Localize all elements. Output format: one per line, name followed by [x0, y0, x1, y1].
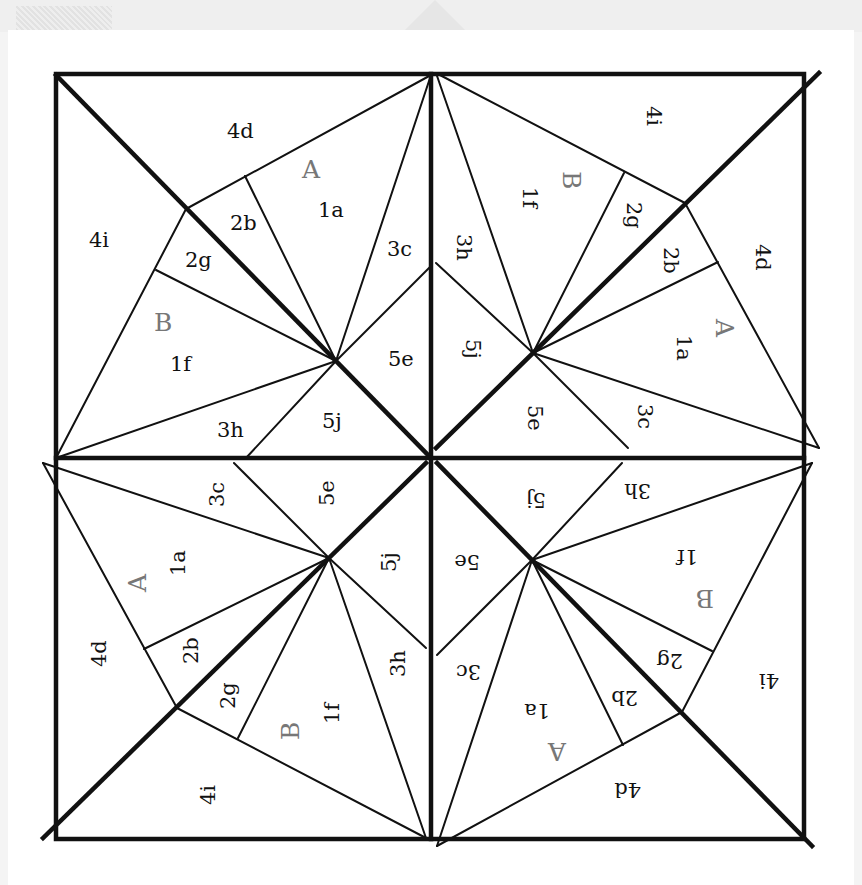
quadrant-top-left: 4d 4i A 1a 2b 2g 3c B 1f 5e 3h 5j [56, 75, 431, 458]
label-5j: 5j [377, 552, 401, 572]
section-letter-b: B [557, 171, 586, 189]
label-1a: 1a [672, 335, 696, 361]
label-2g: 2g [656, 649, 683, 673]
label-1a: 1a [166, 550, 190, 576]
label-4i: 4i [196, 785, 220, 805]
quilt-block-diagram: 4d 4i A 1a 2b 2g 3c B 1f 5e 3h 5j 4d 4i … [0, 0, 862, 885]
label-4d: 4d [614, 778, 641, 802]
label-5j: 5j [461, 339, 485, 359]
label-4d: 4d [87, 640, 111, 667]
label-4i: 4i [642, 106, 666, 126]
label-5j: 5j [322, 409, 342, 433]
label-3h: 3h [452, 234, 476, 261]
label-3h: 3h [386, 650, 410, 677]
quadrant-bottom-right: 4d 4i A 1a 2b 2g 3c B 1f 5e 3h 5j [437, 463, 812, 846]
label-2g: 2g [185, 248, 212, 272]
label-2b: 2b [611, 686, 638, 710]
label-3c: 3c [633, 404, 657, 429]
label-3c: 3c [387, 237, 412, 261]
label-4i: 4i [759, 669, 779, 693]
label-1f: 1f [518, 187, 542, 210]
label-2b: 2b [230, 211, 257, 235]
section-letter-a: A [547, 737, 567, 766]
quadrant-bottom-left: 4d 4i A 1a 2b 2g 3c B 1f 5e 3h 5j [43, 463, 426, 838]
label-4d: 4d [227, 119, 254, 143]
label-5e: 5e [523, 405, 547, 431]
label-1a: 1a [524, 699, 550, 723]
label-3c: 3c [456, 660, 481, 684]
section-letter-a: A [301, 155, 321, 184]
label-5e: 5e [454, 550, 480, 574]
label-5e: 5e [315, 480, 339, 506]
section-letter-a: A [123, 573, 152, 593]
section-letter-b: B [276, 722, 305, 740]
quadrant-top-right: 4d 4i A 1a 2b 2g 3c B 1f 5e 3h 5j [436, 73, 819, 448]
label-1a: 1a [318, 198, 344, 222]
label-2b: 2b [179, 637, 203, 664]
label-1f: 1f [320, 701, 344, 724]
label-5e: 5e [388, 347, 414, 371]
label-3c: 3c [205, 482, 229, 507]
label-5j: 5j [526, 488, 546, 512]
section-letter-b: B [696, 584, 714, 613]
label-1f: 1f [170, 352, 193, 376]
label-4i: 4i [89, 228, 109, 252]
section-letter-b: B [154, 308, 172, 337]
label-4d: 4d [751, 244, 775, 271]
label-2g: 2g [622, 202, 646, 229]
label-2g: 2g [216, 682, 240, 709]
section-letter-a: A [710, 318, 739, 338]
label-3h: 3h [624, 479, 651, 503]
label-2b: 2b [659, 247, 683, 274]
label-1f: 1f [675, 545, 698, 569]
label-3h: 3h [217, 418, 244, 442]
